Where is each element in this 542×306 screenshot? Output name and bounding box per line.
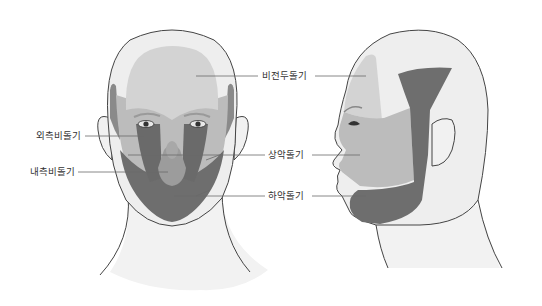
label-frontonasal: 비전두돌기 xyxy=(262,70,307,81)
label-medial-nasal: 내측비돌기 xyxy=(30,166,75,177)
side-frontonasal-region xyxy=(344,54,382,120)
label-maxillary: 상악돌기 xyxy=(268,149,304,160)
side-maxillary-region xyxy=(339,108,414,187)
label-lateral-nasal: 외측비돌기 xyxy=(36,130,81,141)
side-view xyxy=(333,30,502,268)
face-regions-diagram: 비전두돌기 외측비돌기 상악돌기 내측비돌기 하악돌기 xyxy=(0,0,542,306)
label-mandibular: 하악돌기 xyxy=(268,190,304,201)
front-view xyxy=(98,30,268,290)
